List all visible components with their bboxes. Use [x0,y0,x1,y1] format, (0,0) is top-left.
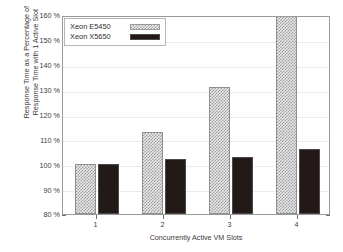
y-axis-title: Response Time as a Percentage of Respons… [22,0,40,156]
bar [142,132,163,214]
legend-entry-xeon-x5650: Xeon X5650 [70,32,160,42]
bar [232,157,253,214]
x-axis-tick-label: 2 [148,221,178,229]
bar [75,164,96,214]
bar [209,87,230,214]
x-axis-tick-mark [163,215,164,219]
legend-entry-xeon-e5450: Xeon E5450 [70,22,160,32]
x-axis-tick-mark [297,215,298,219]
legend: Xeon E5450 Xeon X5650 [64,18,166,46]
y-axis-tick-label: 120 % [6,112,60,119]
x-axis-title: Concurrently Active VM Slots [62,234,330,242]
y-axis-tick-label: 100 % [6,162,60,169]
legend-label-xeon-x5650: Xeon X5650 [70,33,128,41]
y-axis-tick-label: 130 % [6,87,60,94]
legend-label-xeon-e5450: Xeon E5450 [70,23,128,31]
y-axis-tick-label: 140 % [6,62,60,69]
x-axis-tick-label: 3 [215,221,245,229]
bar-chart: Response Time as a Percentage of Respons… [0,0,343,252]
x-axis-tick-mark [96,215,97,219]
x-axis-tick-mark [230,215,231,219]
y-axis-tick-mark [326,215,330,216]
bar [165,159,186,214]
y-axis-tick-label: 150 % [6,37,60,44]
checkered-pattern-swatch-icon [130,24,160,30]
y-axis-tick-mark [62,215,66,216]
solid-dark-swatch-icon [130,34,160,40]
bar [276,16,297,214]
x-axis-tick-label: 4 [282,221,312,229]
y-axis-tick-label: 110 % [6,137,60,144]
x-axis-tick-label: 1 [81,221,111,229]
bar [98,164,119,214]
y-axis-tick-label: 160 % [6,12,60,19]
bar [299,149,320,214]
y-axis-tick-label: 90 % [6,187,60,194]
y-axis-tick-label: 80 % [6,211,60,218]
